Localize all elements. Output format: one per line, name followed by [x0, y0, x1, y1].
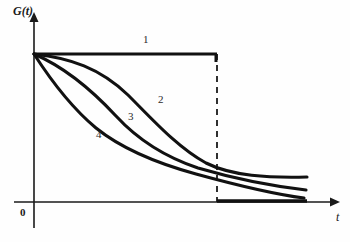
origin-label: 0: [20, 206, 26, 218]
curve-label-1: 1: [143, 33, 149, 45]
series-2-curve: [34, 54, 307, 177]
x-axis-label: t: [336, 210, 339, 225]
curve-label-4: 4: [96, 128, 102, 140]
y-axis-label: G(t): [13, 4, 33, 19]
curve-label-2: 2: [158, 93, 164, 105]
curve-label-3: 3: [128, 110, 134, 122]
chart-plot-area: [0, 0, 350, 242]
chart-figure: G(t) t 0 1 2 3 4: [0, 0, 350, 242]
series-3-curve: [34, 54, 306, 190]
x-axis-arrow-icon: [330, 198, 340, 207]
